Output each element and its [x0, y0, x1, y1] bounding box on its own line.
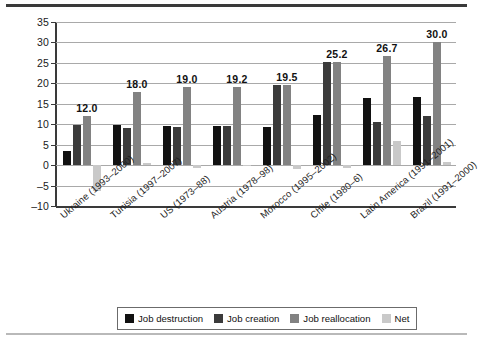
top-divider	[6, 4, 467, 7]
bar-net	[393, 141, 402, 166]
bar-job-reallocation	[333, 62, 342, 165]
legend-label: Job reallocation	[303, 313, 370, 324]
y-tick-label: 15	[37, 99, 49, 109]
y-tick-label: 20	[37, 78, 49, 88]
bar-job-reallocation	[383, 56, 392, 165]
bar-value-label: 18.0	[126, 78, 147, 90]
bar-job-destruction	[413, 97, 422, 165]
bar-job-creation	[273, 85, 282, 165]
plot-area: 35302520151050–5–10 12.018.019.019.219.5…	[56, 22, 456, 206]
y-tick-label: 10	[37, 119, 49, 129]
legend-item[interactable]: Net	[382, 313, 410, 324]
chart-legend: Job destructionJob creationJob reallocat…	[117, 307, 417, 330]
bar-net	[193, 165, 202, 167]
legend-item[interactable]: Job creation	[214, 313, 279, 324]
bar-value-label: 12.0	[76, 102, 97, 114]
bar-net	[343, 165, 352, 168]
legend-swatch-icon	[214, 314, 223, 323]
bar-value-label: 25.2	[326, 48, 347, 60]
bar-job-reallocation	[83, 116, 92, 165]
bar-job-creation	[223, 126, 232, 165]
legend-label: Job destruction	[138, 313, 203, 324]
bar-job-destruction	[63, 151, 72, 165]
legend-swatch-icon	[125, 314, 134, 323]
bar-value-label: 19.5	[276, 71, 297, 83]
bar-job-creation	[373, 122, 382, 165]
bar-job-reallocation	[183, 87, 192, 165]
bar-value-label: 30.0	[426, 28, 447, 40]
y-tick-mark	[51, 206, 56, 207]
y-tick-label: –5	[37, 181, 49, 191]
y-tick-label: 0	[43, 160, 49, 170]
bar-job-creation	[73, 125, 82, 165]
bar-net	[143, 163, 152, 165]
y-tick-label: 25	[37, 58, 49, 68]
bar-job-destruction	[313, 115, 322, 165]
y-tick-label: 30	[37, 37, 49, 47]
bar-job-reallocation	[233, 87, 242, 166]
legend-item[interactable]: Job destruction	[125, 313, 203, 324]
bar-job-destruction	[363, 98, 372, 165]
bar-job-reallocation	[283, 85, 292, 165]
bar-net	[443, 162, 452, 165]
bar-job-reallocation	[133, 92, 142, 166]
legend-label: Net	[395, 313, 410, 324]
legend-label: Job creation	[227, 313, 279, 324]
bar-net	[243, 165, 252, 166]
bar-job-destruction	[263, 127, 272, 165]
y-tick-label: 5	[43, 140, 49, 150]
bar-job-destruction	[213, 126, 222, 165]
legend-swatch-icon	[382, 314, 391, 323]
y-tick-label: 35	[37, 17, 49, 27]
legend-item[interactable]: Job reallocation	[290, 313, 370, 324]
bar-job-creation	[323, 62, 332, 165]
bar-net	[293, 165, 302, 169]
legend-swatch-icon	[290, 314, 299, 323]
bar-value-label: 19.0	[176, 73, 197, 85]
bottom-divider	[6, 333, 467, 335]
bar-value-label: 19.2	[226, 73, 247, 85]
y-tick-label: –10	[31, 201, 49, 211]
bar-value-label: 26.7	[376, 42, 397, 54]
